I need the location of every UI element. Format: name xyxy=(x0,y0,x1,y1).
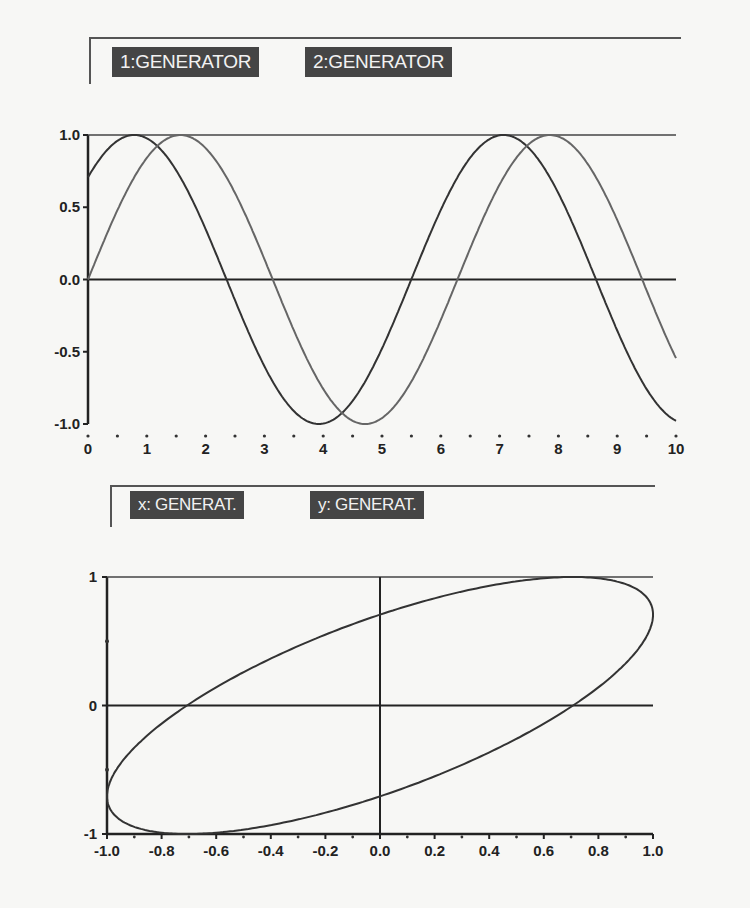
x-tick-label: 1.0 xyxy=(643,842,664,859)
x-tick-label: -0.6 xyxy=(203,842,229,859)
y-tick-label: 0.0 xyxy=(59,271,80,288)
x-tick-label: 0.4 xyxy=(479,842,501,859)
x-tick-label: 8 xyxy=(554,440,562,457)
x-tick-label: 7 xyxy=(495,440,503,457)
x-tick-label: 0.2 xyxy=(424,842,445,859)
x-tick-label: 10 xyxy=(668,440,685,457)
x-tick-label: -1.0 xyxy=(94,842,120,859)
x-tick-label: 4 xyxy=(319,440,328,457)
y-tick-label: -1.0 xyxy=(54,415,80,432)
y-tick-label: 0 xyxy=(89,697,97,714)
y-tick-label: -0.5 xyxy=(54,343,80,360)
x-tick-label: 1 xyxy=(143,440,151,457)
x-tick-label: 0.8 xyxy=(588,842,609,859)
x-tick-label: 0 xyxy=(84,440,92,457)
x-tick-label: -0.2 xyxy=(312,842,338,859)
bottom-xy-plot: 10-1-1.0-0.8-0.6-0.4-0.20.00.20.40.60.81… xyxy=(84,568,664,859)
x-tick-label: -0.8 xyxy=(149,842,175,859)
x-tick-label: 9 xyxy=(613,440,621,457)
x-tick-label: 5 xyxy=(378,440,386,457)
charts-canvas: 1.00.50.0-0.5-1.0012345678910 10-1-1.0-0… xyxy=(0,0,750,908)
y-tick-label: 1.0 xyxy=(59,126,80,143)
x-tick-label: 0.6 xyxy=(533,842,554,859)
y-tick-label: -1 xyxy=(84,825,97,842)
x-tick-label: -0.4 xyxy=(258,842,285,859)
x-tick-label: 0.0 xyxy=(370,842,391,859)
x-tick-label: 6 xyxy=(437,440,445,457)
y-tick-label: 0.5 xyxy=(59,198,80,215)
top-time-plot: 1.00.50.0-0.5-1.0012345678910 xyxy=(54,126,684,457)
y-tick-label: 1 xyxy=(89,568,97,585)
x-tick-label: 2 xyxy=(201,440,209,457)
x-tick-label: 3 xyxy=(260,440,268,457)
